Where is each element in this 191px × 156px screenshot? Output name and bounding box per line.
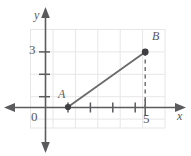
y-axis: [41, 7, 50, 153]
y-axis-label: y: [34, 9, 39, 21]
x-axis-label: x: [177, 110, 182, 122]
x-tick-label-5: 5: [143, 112, 150, 125]
y-axis-ticks: [39, 52, 50, 97]
y-axis-arrow-down: [41, 142, 50, 153]
point-b-marker: [142, 49, 149, 56]
point-a-label: A: [58, 88, 65, 100]
graph-canvas: [0, 0, 191, 156]
coordinate-plane-figure: y x 0 3 5 A B: [0, 0, 191, 156]
segment-ab: [68, 52, 145, 107]
y-tick-label-3: 3: [29, 43, 36, 56]
point-b-label: B: [152, 30, 159, 42]
origin-tick-label: 0: [31, 110, 38, 123]
point-a-marker: [65, 104, 71, 110]
y-axis-arrow-up: [41, 7, 50, 18]
x-axis-arrow-left: [4, 103, 15, 112]
